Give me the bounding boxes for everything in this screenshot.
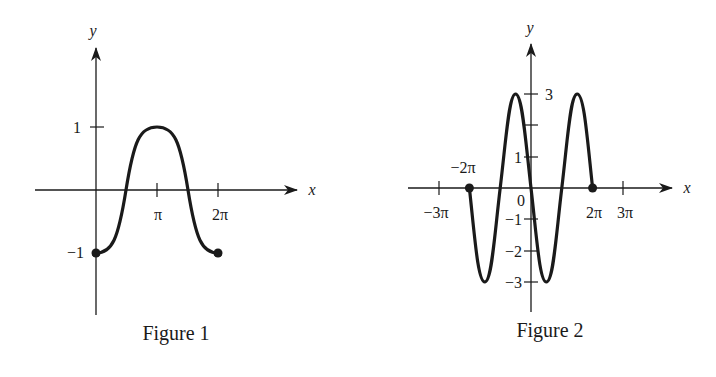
fig1-endpoint-right: [214, 249, 223, 258]
fig2-endpoint-right: [588, 184, 597, 193]
fig2-ytick-label-3: 3: [545, 86, 553, 103]
fig2-endpoint-left: [465, 184, 474, 193]
fig1-endpoint-left: [92, 249, 101, 258]
figures-canvas: y x 1 −1 π 2π Figure 1 y x 3 1 −1 −2: [0, 0, 716, 377]
fig2-y-axis-label: y: [524, 19, 534, 37]
fig1-caption: Figure 1: [142, 322, 209, 345]
fig2-ytick-label-neg3: −3: [505, 274, 522, 291]
fig1-ytick-label-neg1: −1: [67, 244, 84, 261]
fig1-y-axis-label: y: [87, 22, 97, 40]
fig1-xtick-label-2pi: 2π: [212, 206, 228, 223]
fig2-ytick-label-neg1: −1: [505, 211, 522, 228]
fig1-xtick-label-pi: π: [154, 206, 162, 223]
fig2-caption: Figure 2: [516, 319, 583, 342]
fig2-x-axis-label: x: [682, 179, 690, 196]
fig2-xtick-label-neg2pi: −2π: [450, 159, 475, 176]
fig2-ytick-label-1: 1: [514, 149, 522, 166]
figure-2: y x 3 1 −1 −2 −3 0 −3π −2π 2π 3π Figure …: [408, 19, 691, 342]
figure-1: y x 1 −1 π 2π Figure 1: [35, 22, 316, 345]
fig2-xtick-label-3pi: 3π: [617, 204, 633, 221]
fig1-x-axis-label: x: [307, 181, 315, 198]
fig1-ytick-label-1: 1: [73, 119, 81, 136]
fig2-origin-label: 0: [517, 192, 525, 209]
fig2-xtick-label-2pi: 2π: [586, 204, 602, 221]
fig2-xtick-label-neg3pi: −3π: [423, 204, 448, 221]
fig2-ytick-label-neg2: −2: [505, 243, 522, 260]
